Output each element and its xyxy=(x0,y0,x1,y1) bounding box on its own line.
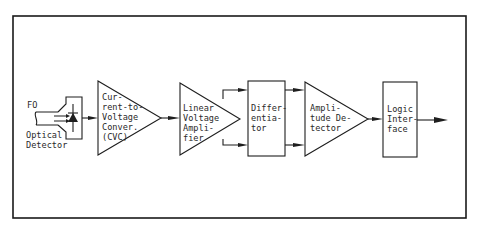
lva-label-line-4: fier xyxy=(183,133,204,143)
lva-label-line-3: Ampli- xyxy=(183,123,214,133)
cvc-label-line-5: (CVC) xyxy=(102,132,128,142)
arrows-differentiator-to-amplitude-detector xyxy=(285,88,305,147)
cvc-label-line-1: Cur- xyxy=(102,92,123,102)
block-logic-interface: Logic Inter- face xyxy=(383,82,418,157)
diff-label-line-3: tor xyxy=(251,123,267,133)
cvc-label-line-2: rent-to- xyxy=(102,102,143,112)
detector-label-line-2: Detector xyxy=(26,140,67,150)
diff-label-line-2: entia- xyxy=(251,113,282,123)
cvc-label-line-4: Conver. xyxy=(102,122,138,132)
signal-chain-block-diagram: FO Optical Detector Cur- rent-to- Voltag… xyxy=(0,0,479,231)
logic-label-line-2: Inter- xyxy=(387,114,418,124)
photodiode-icon xyxy=(68,104,78,132)
logic-label-line-1: Logic xyxy=(387,104,413,114)
ampdet-label-line-3: tector xyxy=(310,123,341,133)
fiber-label: FO xyxy=(27,100,37,110)
block-differentiator: Differ- entia- tor xyxy=(248,81,287,156)
arrow-cvc-to-amplifier xyxy=(161,116,180,120)
light-rays-icon xyxy=(54,116,66,121)
lva-label-line-2: Voltage xyxy=(183,113,219,123)
logic-label-line-3: face xyxy=(387,124,408,134)
ampdet-label-line-1: Ampli- xyxy=(310,103,341,113)
arrow-detector-to-cvc xyxy=(82,116,98,120)
detector-label-line-1: Optical xyxy=(26,130,62,140)
diff-label-line-1: Differ- xyxy=(251,103,287,113)
cvc-label-line-3: Voltage xyxy=(102,112,138,122)
block-linear-voltage-amplifier: Linear Voltage Ampli- fier xyxy=(180,83,240,155)
optical-detector: FO Optical Detector xyxy=(26,97,82,150)
arrows-amplifier-to-differentiator xyxy=(223,88,248,147)
ampdet-label-line-2: tude De- xyxy=(310,113,351,123)
block-current-to-voltage-converter: Cur- rent-to- Voltage Conver. (CVC) xyxy=(98,81,161,155)
arrow-amplitude-detector-to-logic xyxy=(368,117,383,121)
lva-label-line-1: Linear xyxy=(183,103,214,113)
arrow-output xyxy=(417,117,448,123)
block-amplitude-detector: Ampli- tude De- tector xyxy=(305,82,368,156)
optical-fiber xyxy=(35,112,58,125)
